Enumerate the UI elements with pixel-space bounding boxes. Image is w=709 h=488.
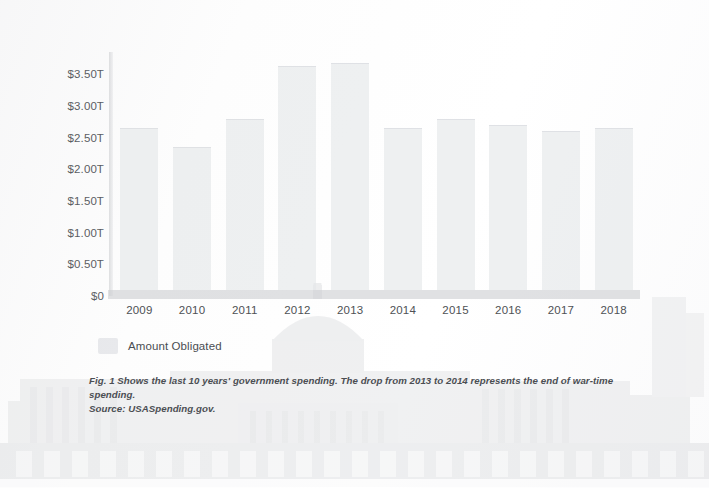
bar-2011[interactable] [226,119,264,290]
bar-2018[interactable] [595,128,633,290]
bar-2013[interactable] [331,63,369,290]
bar-2015[interactable] [437,119,475,290]
x-axis-tick-label: 2014 [390,304,416,316]
bar-2014[interactable] [384,128,422,290]
x-axis-tick-label: 2010 [179,304,205,316]
chart-legend: Amount Obligated [98,338,222,354]
x-axis-tick-label: 2018 [600,304,626,316]
bar-slot [278,52,316,290]
x-axis-tick-labels: 2009201020112012201320142015201620172018 [113,304,640,324]
y-axis-tick-labels: $0$0.50T$1.00T$1.50T$2.00T$2.50T$3.00T$3… [46,58,104,298]
y-axis-tick-label: $0.50T [68,258,104,270]
bar-slot [384,52,422,290]
y-axis-tick-label: $1.00T [68,227,104,239]
y-axis-tick-label: $0 [91,290,104,302]
bar-slot [173,52,211,290]
bar-slot [542,52,580,290]
bar-slot [437,52,475,290]
plot-area [113,52,640,290]
x-axis-tick-label: 2017 [548,304,574,316]
y-axis-tick-label: $3.00T [68,100,104,112]
bar-2017[interactable] [542,131,580,290]
x-axis-tick-label: 2009 [126,304,152,316]
amount-obligated-swatch [98,338,118,354]
x-axis-baseline [108,290,640,299]
bar-2016[interactable] [489,125,527,290]
x-axis-tick-label: 2016 [495,304,521,316]
figure-caption: Fig. 1 Shows the last 10 years' governme… [89,374,641,416]
bar-slot [489,52,527,290]
bar-2012[interactable] [278,66,316,290]
caption-line-1: Fig. 1 Shows the last 10 years' governme… [89,374,641,402]
caption-line-2: Source: USASpending.gov. [89,402,641,416]
y-axis-tick-label: $1.50T [68,195,104,207]
bar-2009[interactable] [120,128,158,290]
y-axis-tick-label: $2.00T [68,163,104,175]
x-axis-tick-label: 2013 [337,304,363,316]
bar-2010[interactable] [173,147,211,290]
x-axis-tick-label: 2011 [232,304,258,316]
y-axis-tick-label: $2.50T [68,132,104,144]
bar-slot [331,52,369,290]
bar-slot [226,52,264,290]
y-axis-tick-label: $3.50T [68,68,104,80]
bar-slot [595,52,633,290]
legend-item-label: Amount Obligated [128,340,222,352]
x-axis-tick-label: 2015 [442,304,468,316]
bar-slot [120,52,158,290]
x-axis-tick-label: 2012 [284,304,310,316]
